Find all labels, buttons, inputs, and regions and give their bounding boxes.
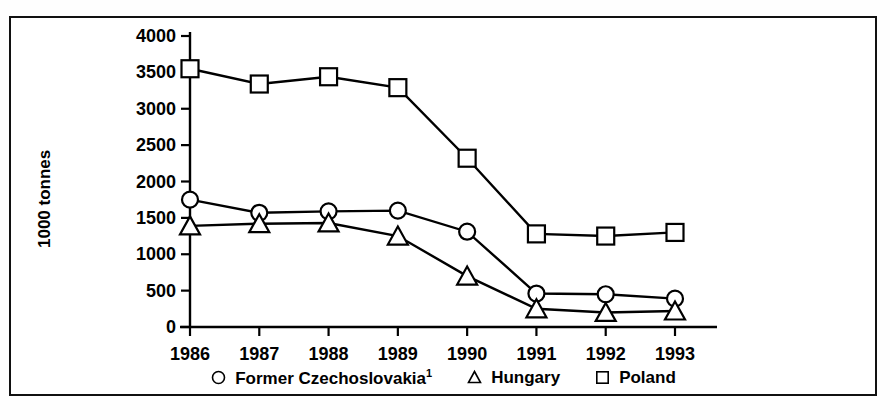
- data-point-square-marker: [528, 225, 545, 242]
- x-axis-tick-label: 1989: [378, 344, 418, 364]
- y-axis-tick-label: 3500: [136, 62, 176, 82]
- data-point-square-marker: [320, 68, 337, 85]
- legend-item-former-czechoslovakia: Former Czechoslovakia1: [210, 368, 432, 387]
- data-point-triangle-marker: [457, 267, 477, 285]
- data-point-square-marker: [251, 76, 268, 93]
- legend-label-poland: Poland: [619, 369, 676, 386]
- x-axis-tick-label: 1987: [239, 344, 279, 364]
- legend-item-poland: Poland: [594, 369, 676, 386]
- y-axis-tick-label: 1000: [136, 244, 176, 264]
- y-axis-tick-label: 2000: [136, 172, 176, 192]
- y-axis-title: 1000 tonnes: [35, 150, 55, 248]
- y-axis-tick-label: 3000: [136, 99, 176, 119]
- x-axis-tick-label: 1992: [586, 344, 626, 364]
- legend-label-hungary: Hungary: [491, 369, 560, 386]
- data-point-circle-marker: [598, 286, 614, 302]
- x-axis: 19861987198819891990199119921993: [170, 327, 717, 364]
- chart-legend: Former Czechoslovakia1 Hungary Poland: [9, 368, 877, 387]
- y-axis-tick-label: 2500: [136, 135, 176, 155]
- legend-label-former-czechoslovakia: Former Czechoslovakia1: [235, 368, 432, 387]
- chart-frame: 05001000150020002500300035004000 1986198…: [9, 16, 877, 396]
- triangle-marker-icon: [466, 369, 483, 386]
- y-axis-tick-label: 500: [146, 281, 176, 301]
- y-axis-tick-label: 0: [166, 317, 176, 337]
- data-point-circle-marker: [459, 224, 475, 240]
- series-former-czechoslovakia: [182, 192, 683, 307]
- legend-item-hungary: Hungary: [466, 369, 560, 386]
- figure-container: 05001000150020002500300035004000 1986198…: [0, 0, 890, 420]
- data-point-square-marker: [389, 79, 406, 96]
- data-point-square-marker: [597, 228, 614, 245]
- y-axis-tick-label: 4000: [136, 26, 176, 46]
- square-marker-icon: [594, 369, 611, 386]
- circle-marker-icon: [210, 369, 227, 386]
- x-axis-tick-label: 1993: [655, 344, 695, 364]
- legend-footnote-marker: 1: [426, 367, 432, 379]
- y-axis-tick-label: 1500: [136, 208, 176, 228]
- data-point-square-marker: [459, 150, 476, 167]
- data-point-circle-marker: [390, 203, 406, 219]
- data-point-circle-marker: [182, 192, 198, 208]
- data-point-square-marker: [182, 60, 199, 77]
- line-chart-plot: 05001000150020002500300035004000 1986198…: [11, 18, 875, 394]
- data-series-group: [180, 60, 685, 321]
- x-axis-tick-label: 1991: [516, 344, 556, 364]
- data-point-square-marker: [667, 224, 684, 241]
- x-axis-tick-label: 1988: [309, 344, 349, 364]
- x-axis-tick-label: 1986: [170, 344, 210, 364]
- x-axis-tick-label: 1990: [447, 344, 487, 364]
